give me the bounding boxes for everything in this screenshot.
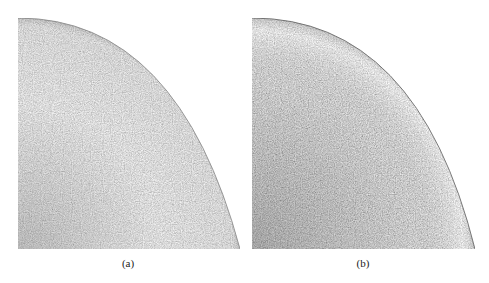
micrograph-b bbox=[252, 18, 475, 249]
caption-a: (a) bbox=[108, 257, 148, 269]
caption-b: (b) bbox=[343, 257, 383, 269]
micrograph-a bbox=[18, 18, 240, 249]
